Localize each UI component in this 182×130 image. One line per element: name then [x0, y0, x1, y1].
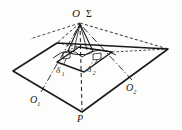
- label-delta2-sub: 2: [93, 70, 96, 76]
- label-point-P: P: [77, 114, 83, 124]
- label-O1: O1: [30, 95, 40, 107]
- label-O2-sub: 2: [133, 88, 136, 95]
- label-delta1: δ′1: [56, 64, 65, 77]
- label-O1-sub: 1: [37, 100, 40, 107]
- label-delta2-prime: ′: [91, 62, 93, 70]
- inner-parallelogram: [57, 47, 112, 72]
- label-apex-O: O: [72, 8, 80, 19]
- label-delta1-sub: 1: [62, 71, 65, 77]
- label-O2: O2: [126, 83, 136, 95]
- geometry-figure: O Σ δ′1 δ′2 O1 O2 P: [0, 0, 182, 130]
- label-delta2: δ′2: [87, 63, 96, 76]
- label-sigma: Σ: [86, 9, 92, 19]
- o1-sight-line: [41, 24, 80, 92]
- delta2-patch: [93, 53, 101, 60]
- axis-o-to-p: [80, 24, 82, 110]
- label-delta1-prime: ′: [60, 63, 62, 71]
- apex-edge-backleft-dashed: [30, 23, 80, 39]
- frustum-top-right-dashed: [112, 49, 168, 52]
